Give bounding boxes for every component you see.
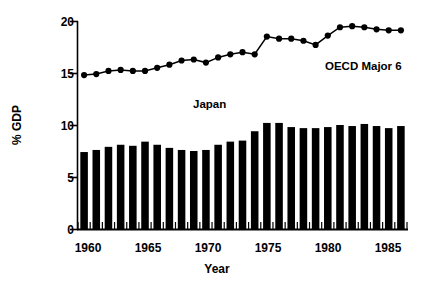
bar — [141, 142, 149, 229]
line-marker — [386, 27, 392, 33]
bar — [190, 151, 198, 229]
bar — [153, 145, 161, 229]
line-marker — [337, 24, 343, 30]
line-marker — [398, 27, 404, 33]
line-marker — [264, 34, 270, 40]
line-marker — [130, 68, 136, 74]
line-marker — [81, 72, 87, 78]
line-marker — [252, 51, 258, 57]
line-marker — [325, 32, 331, 38]
line-marker — [154, 65, 160, 71]
bar — [263, 123, 271, 229]
line-marker — [361, 24, 367, 30]
bar — [178, 150, 186, 229]
line-marker — [105, 68, 111, 74]
bar — [312, 128, 320, 229]
bar — [166, 148, 174, 229]
line-marker — [288, 36, 294, 42]
bar — [129, 146, 137, 229]
line-marker — [313, 42, 319, 48]
bar — [202, 150, 210, 229]
bar — [397, 126, 405, 229]
bar — [373, 126, 381, 229]
bar — [214, 145, 222, 229]
bar — [385, 128, 393, 229]
line-marker — [239, 49, 245, 55]
bar — [251, 131, 259, 229]
bar — [93, 150, 101, 229]
line-marker — [203, 60, 209, 66]
line-marker — [215, 54, 221, 60]
bar — [80, 152, 88, 229]
line-marker — [300, 38, 306, 44]
bar — [239, 141, 247, 229]
line-marker — [227, 51, 233, 57]
line-series-oecd — [81, 23, 404, 78]
bar — [287, 127, 295, 229]
bar — [348, 126, 356, 229]
line-marker — [93, 71, 99, 77]
bar — [275, 123, 283, 229]
line-marker — [142, 68, 148, 74]
bar — [105, 147, 113, 229]
line-marker — [373, 26, 379, 32]
chart-figure: % GDP Year 20 15 10 5 0 1960 1965 1970 1… — [0, 0, 434, 289]
line-marker — [178, 57, 184, 63]
plot-area — [0, 0, 434, 289]
bar — [227, 142, 235, 229]
bar-series-japan — [80, 123, 404, 229]
line-marker — [191, 56, 197, 62]
bar — [117, 145, 125, 229]
bar — [300, 128, 308, 229]
line-marker — [276, 36, 282, 42]
line-marker — [349, 23, 355, 29]
line-marker — [166, 62, 172, 68]
bar — [361, 124, 369, 229]
line-marker — [118, 67, 124, 73]
bar — [324, 127, 332, 229]
bar — [336, 125, 344, 229]
